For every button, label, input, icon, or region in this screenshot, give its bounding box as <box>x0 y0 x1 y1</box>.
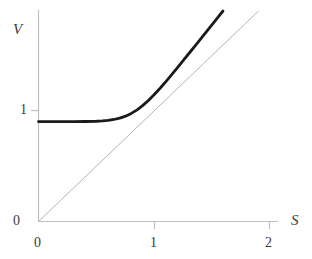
y-tick-label-0: 0 <box>13 214 20 228</box>
y-tick-label-1: 1 <box>20 103 27 117</box>
x-tick-label-1: 1 <box>150 236 157 250</box>
x-tick-label-0: 0 <box>34 236 41 250</box>
x-axis-title: S <box>291 213 299 228</box>
axes-group <box>39 10 279 222</box>
y-axis-title: V <box>13 22 22 37</box>
intrinsic-value-line <box>39 11 259 222</box>
plot-area <box>0 0 312 259</box>
ticks-group <box>31 111 270 230</box>
option-value-curve <box>39 11 223 122</box>
chart-figure: V S 1 0 0 1 2 <box>0 0 312 259</box>
x-tick-label-2: 2 <box>265 236 272 250</box>
